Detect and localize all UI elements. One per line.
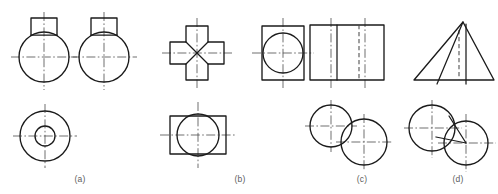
group-a-side-view — [71, 12, 137, 90]
group-b-side-view — [252, 18, 314, 88]
front-rectangle — [310, 25, 384, 80]
figure-sheet: (a) — [0, 0, 498, 194]
technical-drawing-canvas: (a) — [0, 0, 498, 194]
caption-a: (a) — [75, 174, 86, 184]
group-a-front-view — [11, 12, 77, 90]
diagonal-edge-upper-left — [186, 42, 197, 53]
group-c: (c) — [305, 18, 392, 184]
triangle-outline — [414, 22, 494, 80]
group-a-top-view — [13, 104, 77, 168]
caption-d: (d) — [453, 174, 464, 184]
diagonal-edge-lower-right — [197, 53, 208, 64]
group-d-top-view — [404, 100, 496, 172]
group-a: (a) — [11, 12, 137, 184]
group-d-front-view — [414, 22, 494, 84]
group-b-front-view — [162, 18, 232, 88]
diagonal-edge-upper-right — [197, 42, 208, 53]
caption-c: (c) — [357, 174, 368, 184]
caption-b: (b) — [235, 174, 246, 184]
group-c-front-view — [310, 18, 384, 88]
group-c-top-view — [305, 100, 392, 170]
group-d: (d) — [404, 22, 496, 184]
group-b: (b) — [160, 18, 314, 184]
group-b-top-view — [160, 102, 237, 168]
diagonal-edge-lower-left — [186, 53, 197, 64]
circle-upper-left — [310, 105, 352, 147]
